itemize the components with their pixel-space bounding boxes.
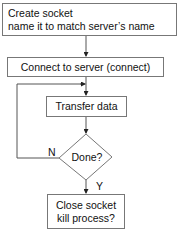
create-socket-node: Create socket name it to match server’s … xyxy=(2,3,177,36)
connect-node: Connect to server (connect) xyxy=(7,57,164,77)
yes-edge-label: Y xyxy=(96,180,103,192)
done-label: Done? xyxy=(68,151,106,163)
close-socket-line2: kill process? xyxy=(48,212,124,225)
transfer-label: Transfer data xyxy=(55,100,117,112)
create-socket-line2: name it to match server’s name xyxy=(8,20,176,33)
transfer-data-node: Transfer data xyxy=(46,96,127,117)
connect-label: Connect to server (connect) xyxy=(21,61,151,73)
create-socket-line1: Create socket xyxy=(8,7,176,20)
no-edge-label: N xyxy=(48,146,56,158)
close-socket-node: Close socket kill process? xyxy=(47,194,125,229)
close-socket-line1: Close socket xyxy=(48,199,124,212)
